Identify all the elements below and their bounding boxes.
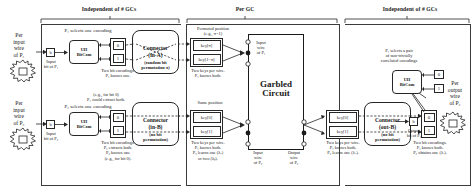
- row-b-same-position-caption: Same position: [186, 100, 234, 105]
- starburst-p1-inner-box: [16, 66, 30, 77]
- brace-left: [40, 16, 180, 23]
- row-c-key-bottom: key[1]: [329, 126, 357, 137]
- row-a-key-top: key[π]: [193, 40, 221, 51]
- row-b-extract-note: (e.g., for bit 0) P₁ could extract both.: [70, 92, 142, 102]
- row-a-input-bit-label: Input bit of P₁: [38, 59, 64, 69]
- row-a-permuted-caption: Permuted position (e.g., π=1): [186, 26, 240, 36]
- row-a-bit1: 1: [113, 54, 124, 64]
- diagram-canvas: Independent of # GCs Per GC Independent …: [0, 0, 474, 192]
- row-c-arrow-to-output-bit: [396, 117, 410, 126]
- row-b-caption: P₂ selects one encoding: [46, 104, 130, 110]
- row-c-keys-caption: Two keys per wire. P₁ knows both. P₂ lea…: [316, 140, 370, 156]
- row-a-arrow-bit-to-bitcom: [55, 48, 69, 57]
- row-b-keys-to-wire: [223, 110, 249, 140]
- row-c-key-top: key[0]: [329, 112, 357, 123]
- row-c-out-bit0: 0: [434, 70, 444, 79]
- row-c-arrow-outbit0-to-bitcom: [422, 71, 434, 79]
- row-b-bit1: 1: [113, 126, 124, 136]
- row-b-keys-caption: Two keys per wire. P₁ knows both. P₂ lea…: [182, 140, 234, 161]
- row-b-gc-wire-out-label: Output wire of P₂: [281, 150, 307, 166]
- section-label-left: Independent of # GCs: [44, 6, 174, 12]
- row-a-key-bottom: key[1−π]: [193, 54, 221, 65]
- row-b-key-bottom: key[1]: [193, 126, 221, 137]
- row-c-output-bit-box: b: [409, 117, 418, 126]
- row-a-bitcom-box: UH BitCom: [69, 40, 99, 64]
- row-b-bit0: 0: [113, 113, 124, 123]
- label-per-input-wire-p2: Per input wire of P₂: [2, 100, 36, 127]
- row-a-gc-wire-label: Input wire of P₁: [250, 40, 272, 56]
- brace-middle: [186, 16, 338, 23]
- row-c-arrow-outbit1-to-bitcom: [422, 85, 434, 93]
- section-label-middle: Per GC: [200, 6, 290, 12]
- row-a-dashed-in: [126, 40, 134, 66]
- row-b-gc-wire-in-label: Input wire of P₂: [246, 150, 270, 166]
- starburst-p2-inner-box: [16, 134, 30, 145]
- row-c-out-caption: P₁ selects a pair of non-trivially corre…: [370, 48, 428, 64]
- row-b-straight-dashed: [126, 112, 180, 138]
- row-c-out-bit1: 1: [434, 84, 444, 93]
- row-b-key-top: key[0]: [193, 112, 221, 123]
- row-a-caption: P₁ selects one encoding: [48, 28, 128, 34]
- row-b-arrow-bit-to-bitcom: [55, 120, 69, 129]
- row-c-encodings-caption: Two bit encodings. P₁ knows both. P₂ obt…: [404, 140, 456, 156]
- row-a-bit0: 0: [113, 41, 124, 51]
- label-per-input-wire-p1: Per input wire of P₁: [2, 32, 36, 59]
- brace-right: [344, 16, 470, 23]
- row-c-bitcom-box: UH BitCom: [392, 70, 422, 94]
- row-a-dashed-out: [178, 40, 190, 66]
- row-c-wire-to-keys: [304, 110, 328, 140]
- row-a-keys-caption: Two keys per wire. P₁ knows both.: [182, 68, 234, 78]
- row-b-dashed-out: [178, 112, 190, 138]
- section-label-right: Independent of # GCs: [350, 6, 470, 12]
- row-c-output-bit-label: Output bit of P₂: [400, 128, 428, 138]
- margin-arrow-p2: [36, 120, 48, 128]
- row-a-permutation-crossing: [136, 42, 176, 62]
- row-b-input-bit-label: Input bit of P₂: [38, 131, 64, 141]
- row-b-bitcom-box: UH BitCom: [69, 112, 99, 136]
- margin-arrow-p1: [36, 48, 48, 56]
